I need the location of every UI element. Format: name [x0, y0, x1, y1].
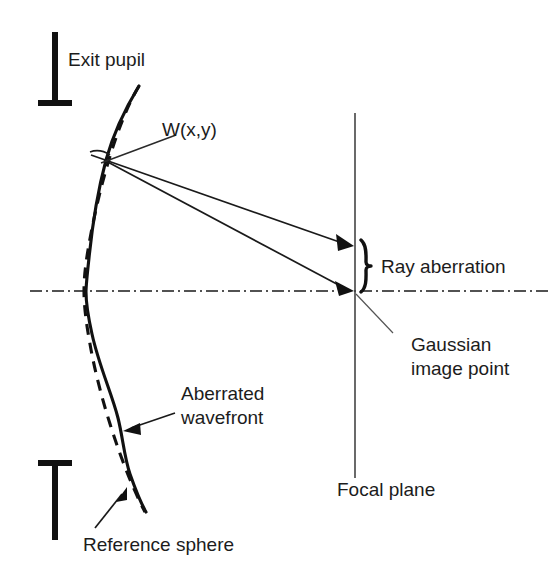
exit-pupil-marker-lower	[38, 460, 72, 540]
reference-sphere-label: Reference sphere	[83, 534, 234, 555]
ray-upper-arrowhead	[336, 234, 354, 251]
reference-sphere-leader-line	[95, 494, 122, 528]
pupil-bar-upper-stem	[52, 32, 58, 104]
exit-pupil-marker-upper	[38, 32, 72, 106]
optics-diagram: Exit pupil W(x,y) Ray aberration Gaussia…	[0, 0, 559, 573]
aberrated-wavefront-label-line1: Aberrated	[181, 383, 264, 404]
wavefront-function-label: W(x,y)	[162, 119, 217, 140]
aberrated-wavefront-label-line2: wavefront	[180, 407, 264, 428]
pupil-bar-lower-stem	[52, 460, 58, 540]
gaussian-image-point-label-line2: image point	[411, 358, 510, 379]
ray-aberration-brace	[361, 240, 371, 292]
ray-lower	[104, 160, 354, 296]
ray-lower-line	[104, 160, 348, 290]
gaussian-image-point-label-line1: Gaussian	[411, 334, 491, 355]
ray-upper-line	[91, 155, 348, 245]
focal-plane-label: Focal plane	[337, 479, 435, 500]
aberrated-wavefront-leader	[123, 413, 175, 435]
pupil-bar-upper-foot	[38, 100, 72, 106]
ray-aberration-label: Ray aberration	[381, 256, 506, 277]
aberrated-wavefront-arrowhead	[123, 423, 141, 435]
reference-sphere-leader	[95, 487, 127, 528]
reference-sphere-arrowhead	[116, 487, 127, 502]
gaussian-point-leader-line	[356, 294, 393, 333]
optics-diagram-canvas: Exit pupil W(x,y) Ray aberration Gaussia…	[0, 0, 559, 573]
ray-upper	[91, 155, 354, 251]
ray-lower-arrowhead	[335, 281, 354, 296]
exit-pupil-label: Exit pupil	[68, 49, 145, 70]
